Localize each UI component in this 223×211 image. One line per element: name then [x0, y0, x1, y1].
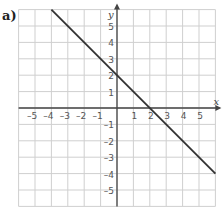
y-tick-label: –2: [104, 137, 114, 147]
y-tick-label: 3: [108, 55, 114, 65]
x-tick-label: 5: [197, 111, 203, 121]
x-tick-label: –5: [27, 111, 37, 121]
x-tick-label: –4: [43, 111, 54, 121]
x-tick-label: –1: [92, 111, 102, 121]
x-axis-label: x: [213, 96, 219, 107]
y-arrow-icon: [114, 4, 120, 10]
y-axis-label: y: [107, 9, 114, 20]
y-tick-label: –3: [104, 153, 114, 163]
x-tick-label: 4: [181, 111, 187, 121]
x-tick-label: 1: [132, 111, 138, 121]
y-tick-label: 1: [108, 88, 114, 98]
line-graph: –5–4–3–2–112345–5–4–3–2–112345xy: [0, 0, 223, 211]
y-tick-label: –1: [104, 120, 114, 130]
y-tick-label: 2: [108, 71, 114, 81]
y-tick-label: 4: [108, 38, 114, 48]
y-tick-label: –5: [104, 186, 114, 196]
x-tick-label: –3: [60, 111, 70, 121]
x-tick-label: 2: [148, 111, 154, 121]
x-tick-label: 3: [164, 111, 170, 121]
x-tick-label: –2: [76, 111, 86, 121]
y-tick-label: 5: [108, 22, 114, 32]
y-tick-label: –4: [104, 170, 115, 180]
